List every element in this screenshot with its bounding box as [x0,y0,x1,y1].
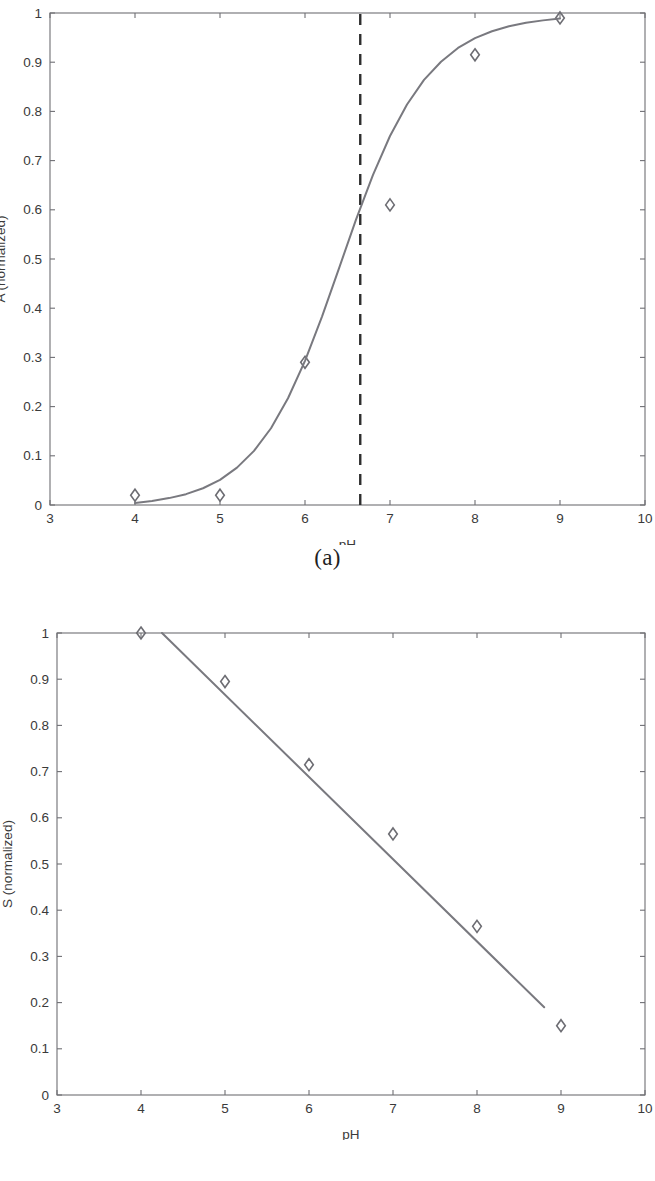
y-axis-tick-label: 0.2 [23,399,42,414]
x-axis-tick-label: 8 [473,1101,481,1116]
data-point-marker [221,676,230,688]
y-axis-tick-label: 0.4 [30,903,49,918]
data-point-marker [557,1020,566,1032]
y-axis-tick-label: 0.6 [23,202,42,217]
x-axis-title: pH [339,537,356,545]
data-point-marker [389,828,398,840]
y-axis-tick-label: 0.1 [23,448,42,463]
x-axis-tick-label: 10 [637,511,652,526]
y-axis-tick-label: 0.9 [23,55,42,70]
y-axis-tick-label: 0.6 [30,810,49,825]
y-axis-tick-label: 0.2 [30,995,49,1010]
x-axis-tick-label: 10 [637,1101,652,1116]
data-point-marker [386,199,395,211]
x-axis-tick-label: 5 [221,1101,229,1116]
data-point-marker [216,489,225,501]
x-axis-tick-label: 3 [53,1101,61,1116]
panel-a-caption: (a) [0,545,655,571]
y-axis-tick-label: 0.8 [30,718,49,733]
y-axis-tick-label: 0 [41,1088,49,1103]
chart-panel-b: 34567891000.10.20.30.40.50.60.70.80.91pH… [0,590,655,1181]
data-point-marker [305,759,314,771]
figure-container: 34567891000.10.20.30.40.50.60.70.80.91pH… [0,0,655,1181]
y-axis-tick-label: 0.8 [23,104,42,119]
chart-a-plot: 34567891000.10.20.30.40.50.60.70.80.91pH… [0,0,655,545]
x-axis-tick-label: 9 [556,511,564,526]
x-axis-tick-label: 8 [471,511,479,526]
x-axis-tick-label: 3 [46,511,54,526]
data-point-marker [131,489,140,501]
x-axis-tick-label: 4 [131,511,139,526]
x-axis-tick-label: 7 [386,511,394,526]
y-axis-tick-label: 0.5 [23,252,42,267]
y-axis-tick-label: 0.5 [30,857,49,872]
x-axis-title: pH [342,1127,359,1140]
x-axis-tick-label: 9 [557,1101,565,1116]
y-axis-tick-label: 0.9 [30,672,49,687]
chart-b-plot: 34567891000.10.20.30.40.50.60.70.80.91pH… [0,590,655,1140]
y-axis-title: A (normalized) [0,215,8,302]
y-axis-tick-label: 0.3 [23,350,42,365]
y-axis-tick-label: 0.4 [23,301,42,316]
chart-panel-a: 34567891000.10.20.30.40.50.60.70.80.91pH… [0,0,655,590]
series-sigmoid-fit [135,18,560,503]
x-axis-tick-label: 4 [137,1101,145,1116]
data-point-marker [471,49,480,61]
y-axis-tick-label: 0 [34,498,42,513]
y-axis-tick-label: 0.7 [30,764,49,779]
y-axis-tick-label: 0.7 [23,153,42,168]
y-axis-tick-label: 0.1 [30,1041,49,1056]
x-axis-tick-label: 7 [389,1101,397,1116]
y-axis-tick-label: 0.3 [30,949,49,964]
y-axis-tick-label: 1 [34,6,42,21]
x-axis-tick-label: 6 [301,511,309,526]
series-linear-fit [162,633,544,1007]
x-axis-tick-label: 5 [216,511,224,526]
data-point-marker [473,920,482,932]
x-axis-tick-label: 6 [305,1101,313,1116]
y-axis-title: S (normalized) [0,820,15,908]
plot-frame [50,13,645,505]
y-axis-tick-label: 1 [41,626,49,641]
